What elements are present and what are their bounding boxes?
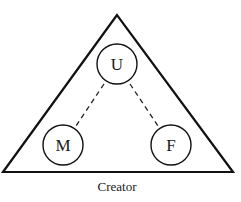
node-u: U [97,44,137,84]
node-f: F [151,125,191,165]
node-m-label: M [55,136,70,155]
diagram-svg: U M F Creator [0,0,241,202]
edge-u-f [130,84,158,126]
node-f-label: F [166,136,175,155]
edge-u-m [76,84,104,126]
node-m: M [43,125,83,165]
creator-triangle [3,15,233,172]
node-u-label: U [111,55,123,74]
diagram-canvas: U M F Creator [0,0,241,202]
creator-label: Creator [98,179,138,194]
